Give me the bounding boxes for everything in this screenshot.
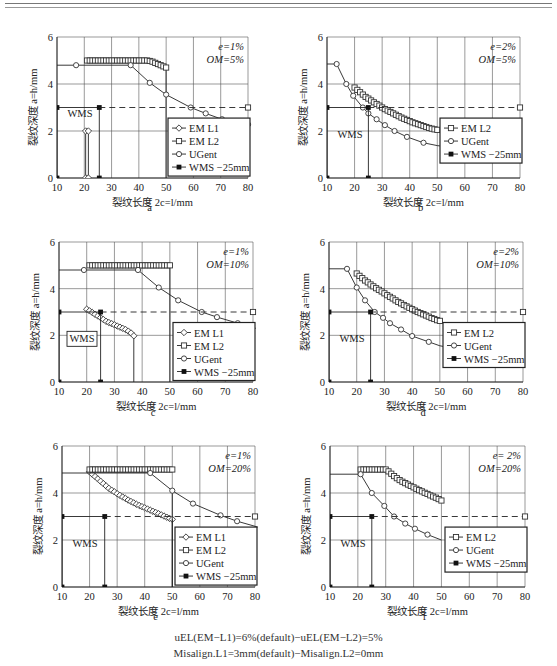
circle-marker — [362, 298, 367, 303]
circle-marker — [351, 93, 356, 98]
panel-label: f — [423, 611, 427, 622]
circle-marker — [147, 80, 152, 85]
filled-square-marker — [449, 152, 454, 157]
filled-square-marker — [368, 380, 373, 385]
x-tick-label: 40 — [139, 591, 150, 602]
filled-square-marker — [452, 356, 457, 361]
series-wms-25mm — [57, 310, 103, 385]
series-acceptance-line — [101, 309, 256, 314]
y-tick-label: 0 — [318, 173, 323, 184]
square-marker — [245, 105, 250, 110]
square-marker — [517, 105, 522, 110]
filled-square-marker — [325, 176, 330, 181]
circle-marker — [392, 128, 397, 133]
legend-entry: UGent — [189, 149, 217, 160]
series-line — [62, 517, 105, 588]
y-tick-label: 4 — [53, 488, 59, 499]
x-tick-label: 70 — [215, 182, 226, 193]
filled-square-marker — [369, 585, 374, 590]
circle-marker — [148, 470, 153, 475]
legend: EM L1EM L2UGentWMS −25mm — [175, 527, 257, 585]
series-acceptance-line — [99, 105, 250, 110]
wms-label: WMS — [337, 129, 362, 140]
square-marker — [451, 330, 456, 335]
x-tick-label: 40 — [404, 182, 415, 193]
circle-marker — [425, 532, 430, 537]
circle-marker — [403, 521, 408, 526]
series-line — [90, 265, 170, 382]
circle-marker — [170, 488, 175, 493]
series-em-l2 — [354, 271, 442, 324]
y-tick-label: 4 — [320, 284, 326, 295]
panel-label: b — [418, 202, 423, 213]
x-tick-label: 10 — [324, 386, 335, 397]
legend-entry: WMS −25mm — [196, 571, 256, 582]
x-tick-label: 20 — [79, 182, 90, 193]
x-tick-label: 60 — [188, 182, 199, 193]
circle-marker — [382, 503, 387, 508]
x-tick-label: 20 — [81, 386, 92, 397]
x-tick-label: 50 — [165, 386, 176, 397]
y-tick-label: 4 — [321, 488, 327, 499]
circle-marker — [135, 267, 140, 272]
square-marker — [448, 125, 453, 130]
legend-entry: WMS −25mm — [464, 354, 524, 365]
annotation-text: OM=10% — [476, 259, 519, 270]
circle-marker — [369, 490, 374, 495]
series-em-l2 — [84, 58, 168, 178]
x-tick-label: 40 — [134, 182, 145, 193]
x-tick-label: 70 — [222, 591, 233, 602]
legend-entry: EM L2 — [466, 532, 496, 543]
filled-square-marker — [327, 380, 332, 385]
circle-marker — [404, 134, 409, 139]
y-tick-label: 2 — [50, 330, 55, 341]
circle-marker — [203, 111, 208, 116]
annotation-text: OM=20% — [208, 463, 251, 474]
square-marker — [250, 309, 255, 314]
square-marker — [164, 65, 169, 70]
x-tick-label: 60 — [460, 182, 471, 193]
circle-marker — [234, 519, 239, 524]
square-marker — [520, 309, 525, 314]
circle-marker — [412, 526, 417, 531]
y-tick-label: 6 — [53, 441, 58, 452]
square-marker — [170, 467, 175, 472]
legend-entry: EM L2 — [464, 328, 494, 339]
y-tick-label: 4 — [48, 79, 54, 90]
x-axis-title: 裂纹长度 2c=l/mm — [383, 196, 464, 208]
filled-square-marker — [60, 585, 65, 590]
y-axis-title: 裂纹深度 a=h/mm — [297, 69, 309, 147]
x-tick-label: 80 — [243, 182, 254, 193]
y-tick-label: 2 — [318, 126, 323, 137]
x-tick-label: 70 — [490, 386, 501, 397]
circle-marker — [382, 123, 387, 128]
x-tick-label: 30 — [109, 386, 120, 397]
legend: EM L2UGentWMS −25mm — [443, 323, 525, 368]
legend-entry: EM L2 — [196, 545, 226, 556]
y-axis-title: 裂纹深度 a=h/mm — [299, 273, 311, 351]
x-tick-label: 80 — [250, 591, 261, 602]
series-acceptance-line — [105, 514, 258, 519]
circle-marker — [451, 343, 456, 348]
annotation-text: e=2% — [493, 246, 519, 257]
x-tick-label: 10 — [322, 182, 333, 193]
filled-square-marker — [55, 105, 60, 110]
filled-square-marker — [102, 585, 107, 590]
annotation-text: e=1% — [218, 41, 244, 52]
x-tick-label: 60 — [462, 386, 473, 397]
y-tick-label: 6 — [318, 32, 323, 43]
legend-entry: UGent — [464, 341, 492, 352]
circle-marker — [453, 547, 458, 552]
filled-square-marker — [328, 585, 333, 590]
circle-marker — [190, 501, 195, 506]
filled-square-marker — [57, 380, 62, 385]
y-tick-label: 2 — [320, 330, 325, 341]
series-em-l2 — [87, 263, 173, 382]
circle-marker — [176, 298, 181, 303]
series-line — [59, 312, 101, 382]
x-axis-title: 裂纹长度 2c=l/mm — [386, 400, 467, 412]
x-axis-title: 裂纹长度 2c=l/mm — [118, 605, 199, 617]
x-tick-label: 20 — [351, 386, 362, 397]
legend-entry: EM L2 — [189, 136, 219, 147]
square-marker — [181, 343, 186, 348]
